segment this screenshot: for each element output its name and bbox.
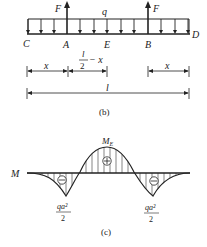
right-moment-numerator: qa² — [145, 203, 156, 212]
caption-b: (b) — [99, 107, 110, 117]
force-label-left: F — [54, 3, 62, 14]
point-label-d: D — [191, 29, 200, 40]
peak-moment-label: ME — [101, 136, 114, 147]
left-moment-numerator: qa² — [57, 202, 68, 211]
dim-right-overhang: x — [164, 60, 170, 71]
right-moment-denominator: 2 — [149, 215, 153, 224]
point-label-e: E — [103, 39, 110, 50]
minus-sign-left-icon — [58, 176, 66, 184]
moment-diagram — [27, 140, 190, 200]
caption-c: (c) — [101, 227, 111, 237]
dim-half-span-num: l — [82, 49, 85, 59]
dim-half-span-den: 2 — [80, 61, 85, 71]
point-label-b: B — [145, 39, 151, 50]
point-label-a: A — [62, 39, 70, 50]
beam-diagram: F F q C A E B D x l 2 − x x l (b) — [0, 0, 207, 247]
distributed-load — [26, 19, 190, 34]
plus-sign-icon — [103, 157, 111, 165]
force-arrow-left-icon — [64, 1, 70, 34]
point-label-c: C — [23, 38, 30, 49]
dim-left-overhang: x — [43, 60, 49, 71]
left-moment-denominator: 2 — [61, 214, 65, 223]
load-label: q — [102, 6, 107, 17]
force-arrow-right-icon — [145, 1, 151, 34]
dim-half-span-tail: − x — [89, 54, 103, 65]
dim-total-length: l — [106, 82, 109, 93]
force-label-right: F — [152, 3, 160, 14]
moment-axis-label: M — [10, 168, 20, 179]
minus-sign-right-icon — [150, 177, 158, 185]
